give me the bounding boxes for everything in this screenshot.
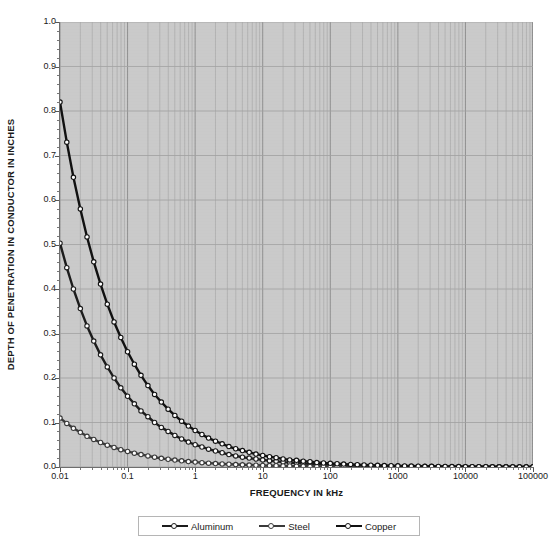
x-tick-mark-minor	[395, 468, 396, 470]
legend-item-aluminum[interactable]: Aluminum	[162, 521, 233, 532]
data-point	[213, 439, 217, 443]
y-tick-label: 0.4	[26, 284, 56, 293]
data-point	[186, 440, 190, 444]
x-tick-mark-minor	[459, 468, 460, 470]
data-point	[85, 235, 89, 239]
x-tick-mark-minor	[180, 468, 181, 470]
data-point	[92, 260, 96, 264]
x-tick-mark-minor	[486, 468, 487, 470]
x-tick-mark-minor	[80, 468, 81, 470]
data-point	[166, 407, 170, 411]
x-tick-mark-minor	[168, 468, 169, 470]
data-point	[220, 462, 224, 466]
x-tick-mark-minor	[242, 468, 243, 470]
x-tick-mark-minor	[324, 468, 325, 470]
legend-item-copper[interactable]: Copper	[336, 521, 396, 532]
x-tick-mark-minor	[148, 468, 149, 470]
data-point	[220, 442, 224, 446]
data-point	[65, 421, 69, 425]
data-point	[179, 419, 183, 423]
data-point	[342, 462, 346, 466]
x-tick-mark-minor	[117, 468, 118, 470]
data-point	[85, 434, 89, 438]
data-point	[105, 443, 109, 447]
y-tick-label: 1.0	[26, 17, 56, 26]
chart-legend: AluminumSteelCopper	[138, 516, 420, 536]
data-point	[308, 459, 312, 463]
y-tick-label: 0.1	[26, 418, 56, 427]
x-tick-mark-minor	[160, 468, 161, 470]
x-tick-label: 1	[193, 471, 198, 481]
legend-label: Copper	[365, 521, 396, 532]
x-tick-mark-minor	[101, 468, 102, 470]
x-tick-mark-minor	[260, 468, 261, 470]
x-tick-mark-minor	[107, 468, 108, 470]
data-point	[132, 451, 136, 455]
y-axis-title-text: DEPTH OF PENETRATION IN CONDUCTOR IN INC…	[6, 119, 17, 371]
x-tick-mark-minor	[351, 468, 352, 470]
chart-title: SKIN EFFECT IN DIFFERENT CONDUCTIVE MATE…	[0, 0, 559, 1]
x-tick-mark-minor	[124, 468, 125, 470]
legend-swatch-icon	[259, 521, 285, 531]
data-point	[146, 415, 150, 419]
x-tick-label: 10	[258, 471, 268, 481]
x-tick-label: 1000	[388, 471, 408, 481]
data-point	[85, 324, 89, 328]
data-point	[78, 306, 82, 310]
data-point	[105, 365, 109, 369]
x-tick-mark-minor	[439, 468, 440, 470]
data-point	[146, 383, 150, 387]
x-tick-mark-minor	[526, 468, 527, 470]
data-point	[315, 460, 319, 464]
data-point	[294, 458, 298, 462]
data-point	[98, 282, 102, 286]
data-point	[152, 392, 156, 396]
data-point	[71, 426, 75, 430]
x-tick-mark-minor	[303, 468, 304, 470]
x-tick-mark-minor	[227, 468, 228, 470]
data-point	[261, 453, 265, 457]
data-point	[166, 457, 170, 461]
data-point	[261, 458, 265, 462]
x-tick-mark-minor	[455, 468, 456, 470]
x-tick-mark-minor	[530, 468, 531, 470]
data-point	[125, 449, 129, 453]
data-point	[200, 460, 204, 464]
x-tick-mark-minor	[295, 468, 296, 470]
data-point	[139, 409, 143, 413]
x-tick-mark-minor	[513, 468, 514, 470]
x-tick-mark-minor	[315, 468, 316, 470]
y-tick-label: 0.0	[26, 462, 56, 471]
data-point	[321, 461, 325, 465]
data-point	[71, 175, 75, 179]
x-tick-mark-minor	[236, 468, 237, 470]
data-point	[78, 430, 82, 434]
legend-item-steel[interactable]: Steel	[259, 521, 310, 532]
data-point	[119, 447, 123, 451]
data-point	[227, 452, 231, 456]
data-point	[60, 416, 62, 420]
data-point	[139, 373, 143, 377]
x-tick-mark-minor	[248, 468, 249, 470]
data-point	[206, 436, 210, 440]
x-tick-mark-minor	[523, 468, 524, 470]
y-axis-tick-labels: 0.00.10.20.30.40.50.60.70.80.91.0	[18, 22, 56, 467]
plot-canvas	[60, 22, 533, 467]
data-point	[220, 451, 224, 455]
x-tick-mark-minor	[215, 468, 216, 470]
data-point	[335, 462, 339, 466]
data-point	[267, 455, 271, 459]
x-tick-label: 100000	[518, 471, 548, 481]
data-point	[65, 140, 69, 144]
y-tick-label: 0.2	[26, 373, 56, 382]
data-point	[125, 394, 129, 398]
x-tick-mark-minor	[445, 468, 446, 470]
data-point	[132, 362, 136, 366]
data-point	[233, 447, 237, 451]
x-tick-mark-minor	[283, 468, 284, 470]
data-point	[288, 458, 292, 462]
x-tick-mark-minor	[506, 468, 507, 470]
y-tick-label: 0.6	[26, 195, 56, 204]
data-point	[112, 445, 116, 449]
x-tick-mark-minor	[256, 468, 257, 470]
